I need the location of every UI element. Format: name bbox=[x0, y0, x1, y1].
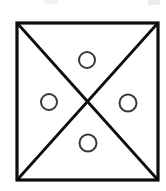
square-diagonals-diagram bbox=[0, 0, 166, 191]
circle-right bbox=[120, 95, 137, 112]
circle-top bbox=[79, 52, 95, 68]
circle-bottom bbox=[80, 135, 97, 152]
artifact-top-right-mark bbox=[148, 0, 160, 5]
artifact-top-left-mark bbox=[44, 0, 58, 4]
circle-left bbox=[41, 94, 57, 110]
diagram-root bbox=[0, 0, 166, 191]
